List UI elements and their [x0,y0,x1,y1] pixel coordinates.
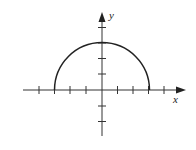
y-axis-label: y [108,9,114,21]
x-axis-label: x [172,93,178,105]
semicircle-graph: x y [0,0,196,150]
y-axis-arrow-icon [99,12,106,22]
